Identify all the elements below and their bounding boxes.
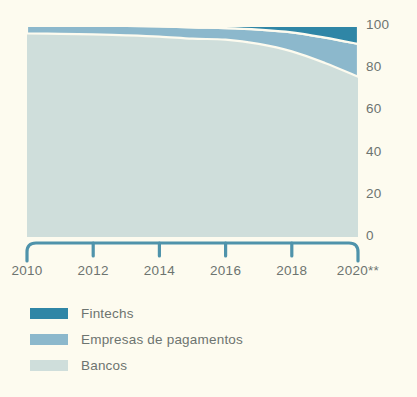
chart-legend: Fintechs Empresas de pagamentos Bancos bbox=[30, 300, 390, 378]
legend-item-fintechs: Fintechs bbox=[30, 300, 390, 326]
y-axis-tick-label: 100 bbox=[366, 17, 389, 32]
legend-label-bancos: Bancos bbox=[81, 358, 127, 373]
x-axis-tick-label: 2018 bbox=[257, 263, 327, 278]
x-axis-group bbox=[27, 243, 358, 261]
y-axis-tick-label: 40 bbox=[366, 144, 382, 159]
x-axis-tick-label: 2014 bbox=[124, 263, 194, 278]
legend-label-fintechs: Fintechs bbox=[81, 306, 134, 321]
x-axis-ticks bbox=[93, 243, 292, 256]
x-axis-line bbox=[27, 243, 358, 261]
x-axis-tick-label: 2010 bbox=[0, 263, 62, 278]
legend-item-bancos: Bancos bbox=[30, 352, 390, 378]
legend-swatch-empresas-de-pagamentos bbox=[30, 334, 68, 345]
y-axis-tick-label: 20 bbox=[366, 186, 382, 201]
legend-swatch-bancos bbox=[30, 360, 68, 371]
area-band-bancos bbox=[27, 33, 358, 237]
area-series-group bbox=[27, 26, 358, 237]
y-axis-tick-label: 60 bbox=[366, 101, 382, 116]
legend-swatch-fintechs bbox=[30, 308, 68, 319]
x-axis-tick-label: 2012 bbox=[58, 263, 128, 278]
x-axis-tick-label: 2016 bbox=[191, 263, 261, 278]
x-axis-tick-label: 2020** bbox=[323, 263, 393, 278]
legend-item-empresas-de-pagamentos: Empresas de pagamentos bbox=[30, 326, 390, 352]
y-axis-tick-label: 80 bbox=[366, 59, 382, 74]
stacked-area-chart bbox=[0, 0, 417, 300]
chart-container: 100806040200 201020122014201620182020** … bbox=[0, 0, 417, 397]
legend-label-empresas-de-pagamentos: Empresas de pagamentos bbox=[81, 332, 243, 347]
y-axis-tick-label: 0 bbox=[366, 228, 374, 243]
